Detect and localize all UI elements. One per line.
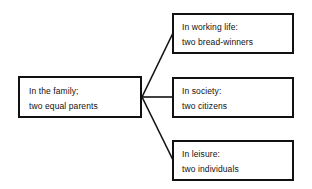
connector-family-to-leisure <box>142 97 173 160</box>
node-society: In society: two citizens <box>172 77 294 118</box>
node-working-life: In working life: two bread-winners <box>172 13 294 54</box>
node-family-subtitle: two equal parents <box>29 99 140 114</box>
node-family-title: In the family; <box>29 84 140 99</box>
node-leisure-subtitle: two individuals <box>182 162 292 177</box>
node-family: In the family; two equal parents <box>18 76 142 118</box>
node-leisure-title: In leisure: <box>182 147 292 162</box>
node-working-life-subtitle: two bread-winners <box>182 35 292 50</box>
node-society-title: In society: <box>182 84 292 99</box>
node-working-life-title: In working life: <box>182 20 292 35</box>
node-society-subtitle: two citizens <box>182 99 292 114</box>
connector-family-to-working <box>142 33 173 97</box>
node-leisure: In leisure: two individuals <box>172 140 294 181</box>
